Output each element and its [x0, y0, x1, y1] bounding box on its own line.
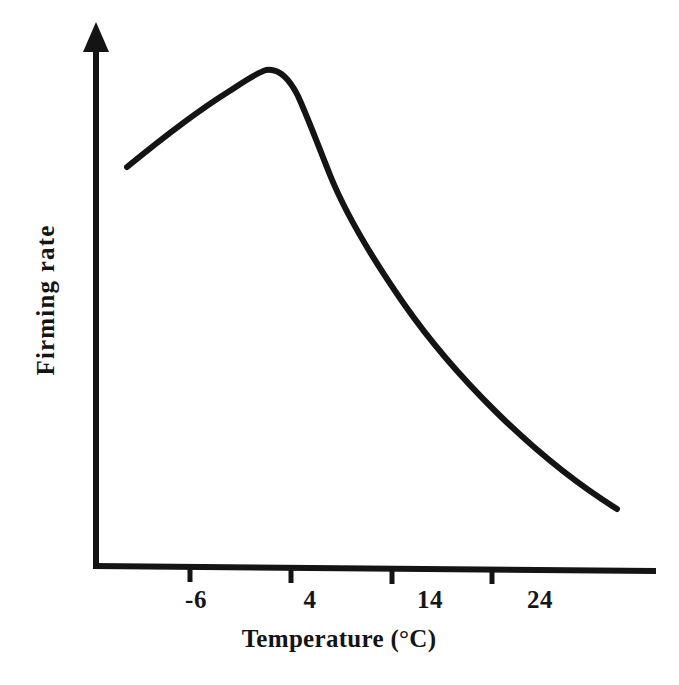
- data-series-line: [127, 70, 617, 509]
- x-tick-label-4: 24: [527, 586, 553, 614]
- chart-plot-area: [0, 0, 679, 685]
- x-tick-label-3: 14: [417, 586, 443, 614]
- chart-figure: -6 4 14 24 Temperature (°C) Firming rate: [0, 0, 679, 685]
- x-axis-title: Temperature (°C): [242, 625, 437, 653]
- x-axis-line: [93, 566, 656, 571]
- x-tick-label-1: -6: [185, 586, 207, 614]
- y-axis-title: Firming rate: [32, 224, 60, 375]
- y-axis-arrow-icon: [83, 22, 109, 52]
- x-tick-label-2: 4: [304, 586, 317, 614]
